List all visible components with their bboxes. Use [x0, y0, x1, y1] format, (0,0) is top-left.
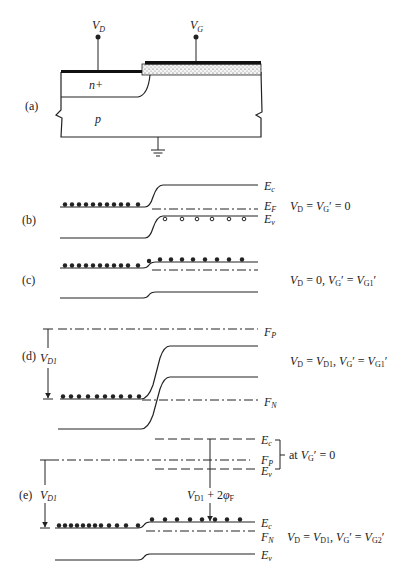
valence-band: [55, 554, 255, 560]
panel-b-equilibrium: (b) Ec EF Ev VD = VG′ = 0: [22, 179, 350, 238]
condition-b: VD = VG′ = 0: [290, 199, 350, 214]
drain-metal: [61, 70, 142, 73]
n-plus-label: n+: [89, 78, 103, 92]
mos-band-diagram: (a) VD VG n+ p (b): [0, 0, 403, 571]
ec-label: Ec: [260, 516, 272, 531]
electrons: [63, 202, 140, 206]
valence-band: [60, 292, 258, 298]
gate-terminal-dot: [194, 35, 199, 40]
condition-e: VD = VD1, VG′ = VG2′: [287, 530, 385, 545]
panel-a-label: (a): [25, 99, 38, 113]
substrate-outline: [56, 72, 262, 137]
electrons: [61, 394, 141, 398]
condition-d: VD = VD1, VG′ = VG1′: [290, 354, 388, 369]
holes: [163, 217, 246, 221]
conduction-band: [60, 185, 258, 207]
ground-icon: [151, 137, 165, 156]
panel-a-device-cross-section: (a) VD VG n+ p: [25, 18, 262, 156]
panel-e-label: (e): [19, 488, 32, 502]
n-plus-region-boundary: [61, 75, 150, 97]
gate-oxide: [142, 64, 261, 75]
ec-ref-label: Ec: [260, 433, 272, 448]
panel-c-label: (c): [22, 273, 35, 287]
fp-label: FP: [263, 325, 276, 340]
vd1-label: VD1: [40, 488, 57, 503]
bracket: [275, 440, 285, 469]
condition-c: VD = 0, VG′ = VG1′: [290, 273, 377, 288]
panel-b-label: (b): [22, 213, 36, 227]
ec-label: Ec: [263, 179, 275, 194]
ev-label: Ev: [260, 548, 272, 563]
vd1-2phif-label: VD1 + 2φF: [187, 488, 235, 503]
fn-label: FN: [260, 530, 274, 545]
drain-terminal-dot: [96, 35, 101, 40]
p-substrate-label: p: [94, 112, 101, 126]
panel-e-drain-and-gate-bias: (e) Ec FP Ev at VG′ = 0 VD1 VD1 + 2φF Ec…: [19, 433, 385, 563]
gate-metal: [145, 61, 261, 65]
ev-label: Ev: [263, 212, 275, 227]
vd1-label: VD1: [40, 351, 57, 366]
fn-label: FN: [263, 395, 277, 410]
valence-band: [58, 377, 258, 429]
panel-c-gate-bias: (c) VD = 0, VG′ = VG1′: [22, 257, 377, 298]
panel-d-drain-bias: (d) VD1 FP FN VD = VD1, VG′ = VG1′: [22, 325, 388, 429]
gate-voltage-label: VG: [190, 18, 203, 34]
bracket-note: at VG′ = 0: [289, 448, 335, 463]
conduction-band: [60, 262, 258, 268]
drain-voltage-label: VD: [92, 18, 105, 34]
panel-d-label: (d): [22, 349, 36, 363]
